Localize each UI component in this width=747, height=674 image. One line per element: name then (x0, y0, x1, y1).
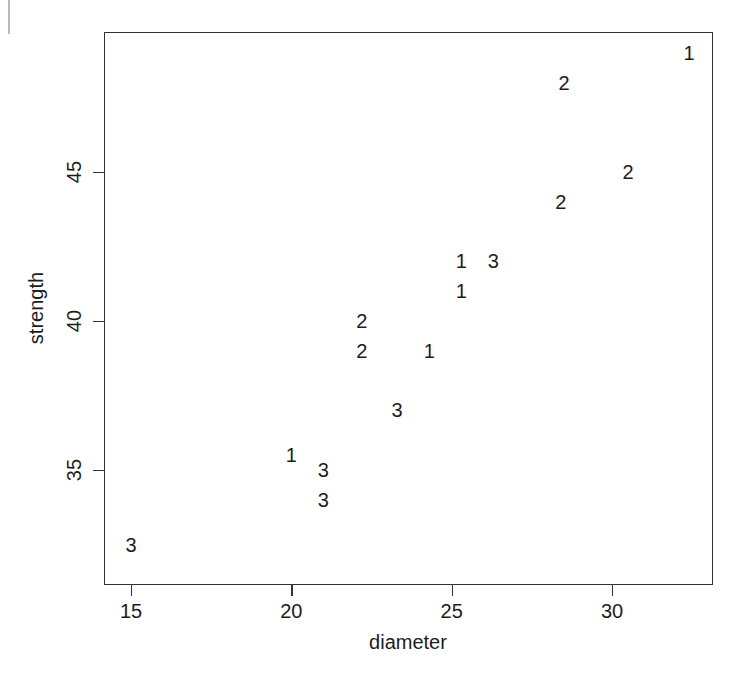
x-tick-mark (131, 585, 132, 596)
y-tick-mark (93, 470, 104, 471)
y-tick-label: 45 (63, 161, 86, 183)
x-tick-label: 30 (601, 600, 623, 623)
page-edge-artifact (8, 0, 10, 34)
y-tick-mark (93, 321, 104, 322)
x-tick-mark (452, 585, 453, 596)
x-tick-mark (612, 585, 613, 596)
x-tick-label: 25 (441, 600, 463, 623)
x-tick-label: 15 (120, 600, 142, 623)
y-tick-label: 40 (63, 310, 86, 332)
plot-frame (104, 32, 713, 585)
x-tick-label: 20 (280, 600, 302, 623)
x-tick-mark (291, 585, 292, 596)
y-tick-mark (93, 172, 104, 173)
y-tick-label: 35 (63, 459, 86, 481)
y-axis-label: strength (25, 272, 48, 344)
scatter-plot-figure: 111112222233333 15202530354045 diameter … (0, 0, 747, 674)
x-axis-label: diameter (369, 631, 447, 654)
